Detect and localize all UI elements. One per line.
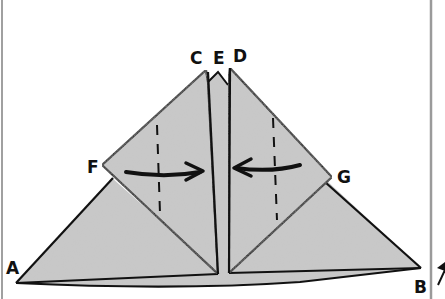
next-step-arrow-fragment	[437, 262, 445, 285]
right-flap-inner-edge	[229, 68, 230, 273]
label-g: G	[337, 167, 351, 187]
label-f: F	[87, 157, 99, 177]
label-b: B	[414, 277, 427, 297]
origami-diagram: C E D F G A B	[0, 0, 445, 299]
label-d: D	[233, 46, 247, 66]
label-a: A	[6, 258, 20, 278]
label-e: E	[213, 48, 225, 68]
label-c: C	[190, 48, 202, 68]
